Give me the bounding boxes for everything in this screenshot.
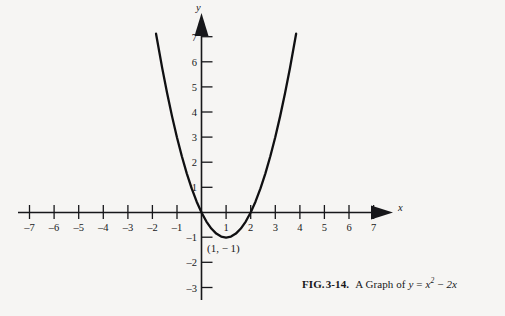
caption-figure-number: 3-14. (326, 278, 349, 290)
figure-caption: FIG.3-14.A Graph of y = x2 − 2x (302, 278, 457, 290)
x-axis-arrowhead (371, 206, 393, 220)
x-tick-label: –2 (146, 222, 158, 233)
x-tick-label: –4 (97, 222, 109, 233)
x-tick-label: 2 (248, 222, 253, 233)
x-tick-label: –1 (171, 222, 183, 233)
y-tick-label: –1 (186, 232, 198, 243)
x-tick-label: –3 (122, 222, 134, 233)
x-tick-label: 1 (223, 222, 228, 233)
y-tick-label: –3 (186, 283, 198, 294)
x-tick-label: –6 (48, 222, 60, 233)
y-tick-label: 2 (192, 157, 197, 168)
y-tick-label: 6 (192, 57, 197, 68)
y-tick-label: 7 (192, 32, 197, 43)
y-axis-label: y (195, 2, 201, 13)
y-tick-label: 5 (192, 82, 197, 93)
caption-equation-exponent: 2 (431, 276, 435, 285)
y-tick-label: –2 (186, 257, 198, 268)
x-tick-label: 4 (297, 222, 303, 233)
x-tick-label: 6 (346, 222, 351, 233)
x-tick-label: 5 (322, 222, 327, 233)
x-tick-label: –5 (72, 222, 84, 233)
y-tick-label: 4 (192, 107, 198, 118)
caption-lead-text: A Graph of (355, 278, 406, 290)
caption-equation-lhs: y (409, 278, 414, 290)
x-axis-label: x (397, 202, 403, 213)
y-tick-label: 3 (192, 132, 197, 143)
caption-equation-minus: − (437, 278, 443, 290)
caption-equation-equals: = (416, 278, 422, 290)
caption-equation-term: 2x (446, 278, 457, 290)
figure-container: x y –7 –6 –5 (0, 0, 505, 316)
vertex-point-label: (1, − 1) (207, 242, 240, 255)
graph-plot-area: x y –7 –6 –5 (0, 0, 505, 316)
x-axis-tick-labels: –7 –6 –5 –4 –3 –2 –1 1 2 3 4 5 6 7 (23, 222, 376, 233)
x-tick-label: 7 (371, 222, 376, 233)
y-axis-tick-labels: –3 –2 –1 1 2 3 4 5 6 7 (186, 32, 198, 294)
x-tick-label: –7 (23, 222, 35, 233)
x-tick-label: 3 (273, 222, 278, 233)
caption-fig-label: FIG. (302, 278, 325, 290)
